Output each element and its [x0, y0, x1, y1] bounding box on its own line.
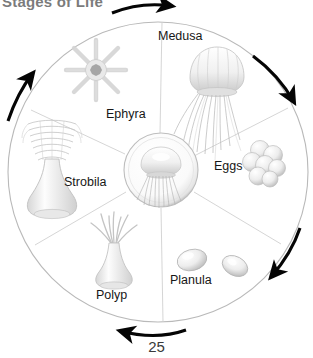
stage-label-ephyra: Ephyra [106, 108, 146, 121]
arrow-lower-right [271, 228, 300, 277]
arrow-upper-right [253, 56, 294, 102]
stage-label-planula: Planula [170, 274, 212, 287]
stage-label-medusa: Medusa [158, 30, 202, 43]
arrow-left [8, 73, 33, 121]
diagram-canvas: Stages of Life [0, 0, 313, 358]
arrow-bottom [120, 330, 186, 335]
flow-arrows [0, 0, 313, 358]
stage-label-eggs: Eggs [214, 160, 243, 173]
stage-label-strobila: Strobila [64, 176, 106, 189]
arrow-top [112, 5, 172, 13]
stage-label-polyp: Polyp [96, 289, 127, 302]
page-number: 25 [0, 338, 313, 355]
